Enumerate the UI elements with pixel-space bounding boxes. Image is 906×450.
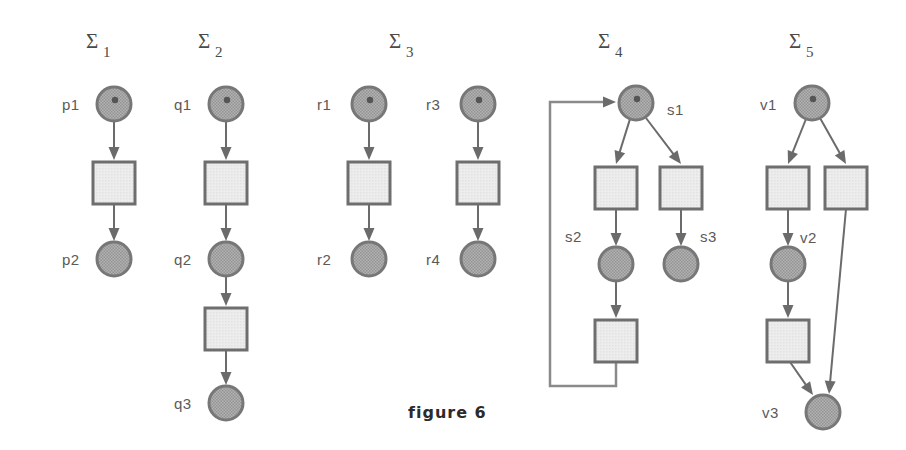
figure-caption: figure 6 [408,403,487,422]
place-label-v3: v3 [762,404,779,421]
token-s1 [634,96,640,102]
transition-sigma-4-t2 [660,167,702,209]
sigma-4-title: Σ [598,29,610,53]
transition-sigma-5-t3 [767,320,809,362]
sigma-4-title-subscript: 4 [615,44,623,60]
place-q2 [209,242,243,276]
sigma-2-title: Σ [198,29,210,53]
place-s2 [599,247,633,281]
place-label-r2: r2 [317,251,331,268]
place-v1 [795,86,829,120]
transition-sigma-2-t2 [205,308,247,350]
place-label-p2: p2 [62,251,80,268]
place-label-v2: v2 [800,229,817,246]
transition-sigma-5-t1 [767,167,809,209]
place-label-r1: r1 [317,96,331,113]
place-label-v1: v1 [760,96,777,113]
place-r1 [352,87,386,121]
transition-sigma-2-t1 [205,162,247,204]
sigma-3-title-subscript: 3 [406,44,414,60]
sigma-3-title: Σ [389,29,401,53]
place-q1 [209,87,243,121]
place-r3 [461,87,495,121]
place-label-q3: q3 [174,395,192,412]
place-s1 [619,86,653,120]
token-v1 [810,96,816,102]
transition-sigma-1-t1 [93,162,135,204]
sigma-5-title-subscript: 5 [806,44,814,60]
place-p1 [97,87,131,121]
transition-sigma-5-t2 [825,167,867,209]
sigma-2-title-subscript: 2 [215,44,223,60]
token-p1 [112,97,118,103]
token-r3 [476,97,482,103]
place-label-q1: q1 [174,96,192,113]
place-p2 [97,242,131,276]
sigma-1-title: Σ [86,29,98,53]
sigma-5-title: Σ [789,29,801,53]
sigma-1-title-subscript: 1 [103,44,111,60]
place-label-s3: s3 [700,228,717,245]
transition-sigma-3-t1 [348,162,390,204]
place-label-r3: r3 [426,96,440,113]
place-label-s1: s1 [667,101,684,118]
transition-sigma-4-t1 [595,167,637,209]
figure-background [0,0,906,450]
place-label-s2: s2 [565,228,582,245]
place-label-r4: r4 [426,251,440,268]
place-s3 [664,247,698,281]
place-v2 [771,247,805,281]
token-r1 [367,97,373,103]
token-q1 [224,97,230,103]
place-q3 [209,386,243,420]
transition-sigma-4-t3 [595,320,637,362]
place-v3 [806,395,840,429]
petri-net-figure: Σ1p1p2Σ2q1q2q3Σ3r1r2r3r4Σ4s1s2s3Σ5v1v2v3… [0,0,906,450]
place-r4 [461,242,495,276]
place-r2 [352,242,386,276]
place-label-p1: p1 [62,96,80,113]
petri-net-canvas: Σ1p1p2Σ2q1q2q3Σ3r1r2r3r4Σ4s1s2s3Σ5v1v2v3… [0,0,906,450]
place-label-q2: q2 [174,251,192,268]
transition-sigma-3-t2 [457,162,499,204]
